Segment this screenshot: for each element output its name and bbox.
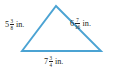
- left-side-length-label: 5 3 8 in.: [5, 19, 24, 31]
- bottom-side-denominator: 4: [49, 63, 52, 68]
- triangle-figure: 5 3 8 in. 6 7 16 in. 7 3 4 in.: [0, 0, 116, 71]
- right-side-whole-number: 6: [70, 20, 74, 28]
- left-side-unit: in.: [16, 21, 24, 29]
- right-side-numerator: 7: [76, 18, 79, 23]
- left-side-denominator: 8: [10, 26, 13, 31]
- right-side-denominator: 16: [75, 25, 81, 30]
- right-side-length-label: 6 7 16 in.: [70, 18, 91, 30]
- right-side-fraction: 7 16: [75, 18, 81, 30]
- bottom-side-fraction: 3 4: [49, 56, 53, 68]
- bottom-side-length-label: 7 3 4 in.: [44, 56, 63, 68]
- left-side-fraction: 3 8: [10, 19, 14, 31]
- right-side-unit: in.: [83, 20, 91, 28]
- left-side-whole-number: 5: [5, 21, 9, 29]
- left-side-numerator: 3: [10, 19, 13, 24]
- bottom-side-whole-number: 7: [44, 58, 48, 66]
- bottom-side-unit: in.: [55, 58, 63, 66]
- bottom-side-numerator: 3: [49, 56, 52, 61]
